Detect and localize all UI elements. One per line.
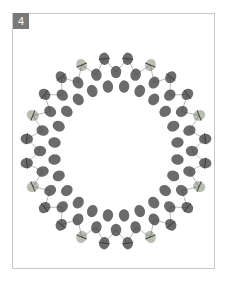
inner-bead bbox=[118, 209, 130, 223]
inner-bead bbox=[59, 104, 75, 120]
inner-bead bbox=[133, 203, 147, 218]
thread-path bbox=[27, 59, 205, 243]
inner-bead bbox=[48, 154, 62, 166]
inner-bead bbox=[51, 169, 66, 183]
inner-bead bbox=[166, 119, 181, 133]
beaded-ring-diagram bbox=[0, 0, 229, 283]
inner-bead bbox=[166, 169, 181, 183]
inner-bead bbox=[85, 203, 99, 218]
inner-bead bbox=[102, 209, 114, 223]
inner-bead bbox=[146, 91, 162, 107]
inner-bead bbox=[70, 91, 86, 107]
inner-bead bbox=[70, 194, 86, 210]
inner-bead bbox=[118, 80, 130, 94]
inner-bead bbox=[146, 194, 162, 210]
inner-bead bbox=[157, 183, 173, 199]
inner-bead bbox=[171, 137, 185, 149]
inner-bead bbox=[48, 137, 62, 149]
inner-bead bbox=[157, 104, 173, 120]
inner-bead bbox=[51, 119, 66, 133]
inner-bead bbox=[85, 83, 99, 98]
inner-bead bbox=[59, 183, 75, 199]
inner-bead bbox=[102, 80, 114, 94]
inner-bead bbox=[133, 83, 147, 98]
inner-bead bbox=[171, 154, 185, 166]
